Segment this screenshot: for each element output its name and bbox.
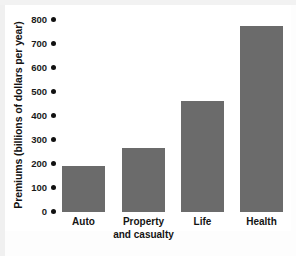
y-axis-tick-dot-icon	[51, 161, 56, 166]
y-axis-tick-label: 600	[21, 62, 47, 74]
y-axis-tick-dot-icon	[51, 209, 56, 214]
y-axis-tick-dot-icon	[51, 65, 56, 70]
y-axis-tick-label: 400	[21, 110, 47, 122]
y-axis-tick: 500	[22, 86, 56, 98]
y-axis-tick-dot-icon	[51, 137, 56, 142]
y-axis-tick-dot-icon	[51, 113, 56, 118]
y-axis-tick: 200	[22, 158, 56, 170]
category-label-health: Health	[219, 216, 297, 229]
bar-life	[181, 101, 224, 212]
bar-chart-figure: Premiums (billions of dollars per year) …	[0, 0, 296, 256]
y-axis-tick-label: 800	[21, 14, 47, 26]
y-axis-tick-label: 100	[21, 182, 47, 194]
y-axis-tick-dot-icon	[51, 185, 56, 190]
category-label-line: Health	[219, 216, 297, 229]
y-axis-tick-dot-icon	[51, 89, 56, 94]
bar-auto	[62, 166, 105, 212]
y-axis-tick: 800	[22, 14, 56, 26]
y-axis-tick: 100	[22, 182, 56, 194]
y-axis-tick: 400	[22, 110, 56, 122]
y-axis-tick: 600	[22, 62, 56, 74]
bar-health	[240, 26, 283, 212]
y-axis-tick: 300	[22, 134, 56, 146]
y-axis-tick-dot-icon	[51, 41, 56, 46]
y-axis-tick-label: 200	[21, 158, 47, 170]
y-axis-tick-dot-icon	[51, 17, 56, 22]
bar-property-and-casualty	[122, 148, 165, 212]
y-axis-tick: 700	[22, 38, 56, 50]
y-axis-tick-label: 300	[21, 134, 47, 146]
y-axis-tick-label: 700	[21, 38, 47, 50]
category-label-line: and casualty	[101, 229, 187, 242]
y-axis-tick-label: 500	[21, 86, 47, 98]
